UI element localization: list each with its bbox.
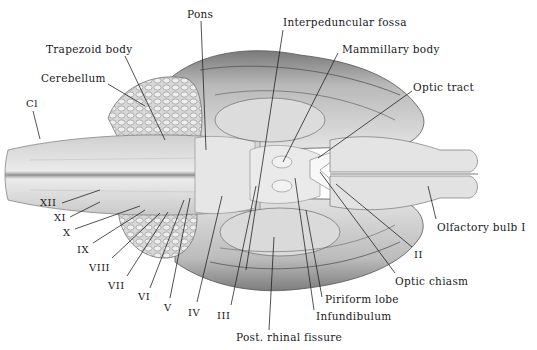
piriform-lobe-lower: [220, 208, 340, 256]
label-xi: XI: [54, 213, 66, 223]
cerebellum-upper: [108, 77, 202, 142]
label-optic-tract: Optic tract: [413, 82, 474, 93]
olfactory-tract-lower: [330, 176, 478, 210]
label-ix: IX: [77, 245, 89, 255]
label-v: V: [164, 303, 172, 313]
label-ii: II: [414, 250, 423, 260]
label-infundibulum: Infundibulum: [316, 311, 392, 322]
label-cerebellum: Cerebellum: [41, 73, 106, 84]
label-c1: Cl: [26, 99, 38, 109]
pons-region: [195, 136, 255, 213]
label-piriform-lobe: Piriform lobe: [325, 294, 399, 305]
piriform-lobe-upper: [215, 98, 325, 142]
label-pons: Pons: [187, 9, 213, 20]
label-post-rhinal-fissure: Post. rhinal fissure: [236, 332, 342, 343]
label-vii: VII: [108, 281, 125, 291]
label-olfactory-bulb: Olfactory bulb I: [437, 222, 526, 233]
label-viii: VIII: [89, 263, 110, 273]
mammillary-body-shape: [272, 156, 292, 168]
label-vi: VI: [138, 292, 150, 302]
label-mammillary-body: Mammillary body: [342, 44, 440, 55]
brain-diagram: PonsInterpeduncular fossaTrapezoid bodyM…: [0, 0, 537, 350]
label-iii: III: [217, 311, 230, 321]
olfactory-tract-upper: [330, 137, 478, 172]
label-interpeduncular-fossa: Interpeduncular fossa: [283, 17, 407, 28]
label-x: X: [63, 228, 71, 238]
label-trapezoid-body: Trapezoid body: [46, 44, 132, 55]
leader-line-c1: [33, 111, 40, 139]
label-optic-chiasm: Optic chiasm: [395, 276, 468, 287]
label-xii: XII: [40, 198, 57, 208]
label-iv: IV: [188, 308, 200, 318]
